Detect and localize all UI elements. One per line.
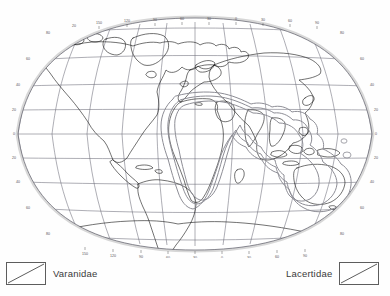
coast-philippines bbox=[299, 127, 308, 135]
svg-text:0: 0 bbox=[375, 132, 377, 136]
svg-text:20: 20 bbox=[72, 24, 76, 28]
svg-text:40: 40 bbox=[370, 83, 374, 87]
lacertidae-swatch-icon bbox=[339, 262, 379, 285]
svg-text:60: 60 bbox=[26, 206, 30, 210]
svg-text:0: 0 bbox=[235, 17, 237, 21]
svg-text:40: 40 bbox=[370, 180, 374, 184]
legend-label-lacertidae: Lacertidae bbox=[286, 268, 332, 279]
svg-text:90: 90 bbox=[315, 21, 319, 25]
figure-root: 150 120 90 60 30 0 30 60 90 20 150 120 9… bbox=[0, 0, 390, 296]
svg-text:60: 60 bbox=[180, 17, 184, 21]
svg-text:20: 20 bbox=[374, 108, 378, 112]
varanidae-swatch-icon bbox=[6, 262, 46, 285]
svg-text:20: 20 bbox=[12, 156, 16, 160]
svg-text:30: 30 bbox=[207, 17, 211, 21]
coast-java bbox=[283, 161, 299, 166]
svg-text:20: 20 bbox=[374, 156, 378, 160]
svg-text:30: 30 bbox=[261, 18, 265, 22]
coast-newfoundland bbox=[146, 71, 156, 78]
svg-text:90: 90 bbox=[153, 18, 157, 22]
svg-text:60: 60 bbox=[360, 57, 364, 61]
legend-label-varanidae: Varanidae bbox=[53, 268, 97, 279]
legend-item-lacertidae[interactable]: Lacertidae bbox=[286, 262, 379, 285]
svg-text:0: 0 bbox=[13, 132, 15, 136]
svg-text:80: 80 bbox=[340, 31, 344, 35]
legend: Varanidae Lacertidae bbox=[0, 258, 390, 296]
svg-text:60: 60 bbox=[288, 19, 292, 23]
legend-item-varanidae[interactable]: Varanidae bbox=[6, 262, 97, 285]
svg-text:80: 80 bbox=[46, 31, 50, 35]
svg-text:60: 60 bbox=[26, 57, 30, 61]
svg-text:40: 40 bbox=[16, 83, 20, 87]
coast-new-zealand bbox=[353, 191, 362, 202]
svg-text:20: 20 bbox=[12, 108, 16, 112]
svg-text:60: 60 bbox=[360, 206, 364, 210]
svg-text:150: 150 bbox=[96, 21, 102, 25]
world-map-svg: 150 120 90 60 30 0 30 60 90 20 150 120 9… bbox=[0, 10, 390, 258]
coast-sulawesi bbox=[304, 148, 314, 155]
svg-text:40: 40 bbox=[16, 180, 20, 184]
svg-text:80: 80 bbox=[46, 232, 50, 236]
world-map-panel: 150 120 90 60 30 0 30 60 90 20 150 120 9… bbox=[0, 10, 390, 258]
svg-text:120: 120 bbox=[124, 19, 130, 23]
svg-text:150: 150 bbox=[82, 252, 88, 256]
svg-text:80: 80 bbox=[340, 232, 344, 236]
